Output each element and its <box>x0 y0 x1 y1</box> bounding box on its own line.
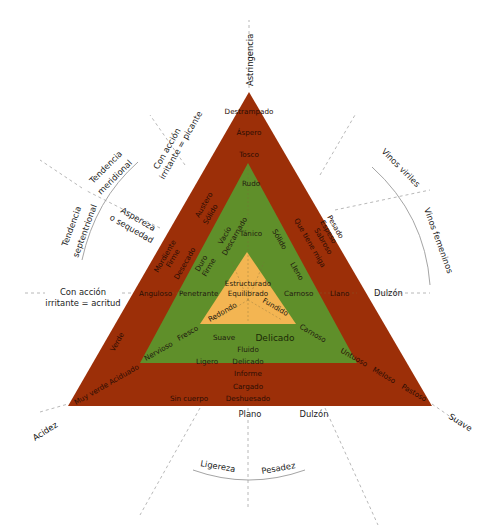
left-axis-label-2: irritante = acritud <box>45 298 120 308</box>
vertex-label-right: Suave <box>447 411 474 433</box>
vertex-label-left: Acidez <box>31 419 60 442</box>
vertex-label-top: Astringencia <box>245 34 255 86</box>
middle-top: Rudo <box>242 179 260 188</box>
middle-bottom-fluido: Fluido <box>237 345 259 354</box>
middle-bottom-delicado: Delicado <box>232 357 263 366</box>
vinos-viriles-label: Vinos viriles <box>380 146 423 189</box>
pesadez-label: Pesadez <box>261 460 297 476</box>
outer-top-2: Áspero <box>237 128 262 137</box>
right-axis-label: Dulzón <box>374 288 403 298</box>
middle-right-side: Carnoso <box>284 289 313 298</box>
middle-left-side: Penetrante <box>179 289 219 298</box>
outer-bottom-3: Deshuesado <box>226 394 270 403</box>
outer-top-1: Destrampado <box>225 107 274 116</box>
outer-bottom-left: Sin cuerpo <box>170 394 208 403</box>
outer-bottom-2: Cargado <box>233 382 263 391</box>
left-axis-label-1: Con acción <box>60 287 106 297</box>
outer-right-side: Llano <box>330 289 349 298</box>
outer-top-3: Tosco <box>238 150 259 159</box>
wine-taste-triangle-diagram: Astringencia Acidez Suave Destrampado Ás… <box>0 0 494 531</box>
outer-left-side: Anguloso <box>139 289 172 298</box>
inner-center-2: Equilibrado <box>228 289 269 298</box>
middle-bottom-left: Ligero <box>196 357 218 366</box>
bottom-plano-label: Plano <box>239 409 262 419</box>
ligereza-label: Ligereza <box>200 458 237 474</box>
inner-center-1: Estructurado <box>225 279 271 288</box>
middle-bottom-right: Delicado <box>255 333 295 343</box>
bottom-dulzon-label: Dulzón <box>300 409 329 419</box>
outer-bottom-1: Informe <box>234 369 262 378</box>
middle-bottom-suave: Suave <box>213 333 236 342</box>
